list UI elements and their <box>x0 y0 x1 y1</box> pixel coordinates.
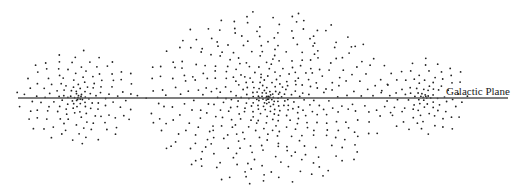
galactic-plane-label: Galactic Plane <box>446 85 510 97</box>
galactic-diagram: Galactic Plane <box>0 0 522 190</box>
diagram-canvas <box>0 0 522 190</box>
left-cluster <box>16 50 138 145</box>
